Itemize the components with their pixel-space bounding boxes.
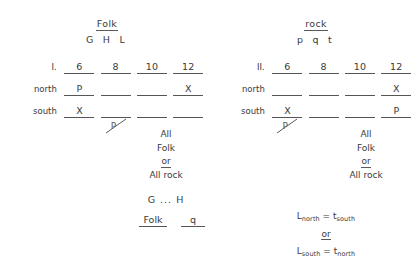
left-col-header-2: 8 — [99, 61, 132, 74]
right-col-header-2: 8 — [307, 61, 340, 74]
equation-1-right-sub: south — [337, 215, 356, 223]
left-north-cell-4[interactable]: X — [172, 83, 205, 96]
left-genre-title: Folk — [96, 18, 118, 31]
left-col-header-3-value: 10 — [135, 61, 168, 72]
left-north-cell-1[interactable]: P — [63, 83, 96, 96]
left-col-header-3: 10 — [135, 61, 168, 74]
right-south-cell-2-rule — [309, 117, 339, 118]
left-south-cell-2[interactable]: P — [99, 105, 132, 118]
left-col-header-2-value: 8 — [99, 61, 132, 72]
left-col-header-4-rule — [173, 73, 203, 74]
left-bottom-pair-folk[interactable]: Folk — [139, 214, 167, 227]
constraint-equations: Lnorth = tsouth or Lsouth = tnorth — [246, 208, 406, 261]
left-table-roman-label: I. — [0, 62, 63, 74]
left-bottom-pair-folk-value: Folk — [139, 214, 167, 225]
left-table: I. 6 8 10 12 north — [0, 52, 208, 118]
right-table-number-row: II. 6 8 10 12 — [208, 52, 416, 74]
right-south-cell-3[interactable] — [343, 105, 376, 118]
right-row-label-north: north — [208, 84, 271, 96]
left-col-header-1-rule — [64, 73, 94, 74]
worksheet-page: Folk G H L I. 6 8 10 12 — [0, 0, 417, 270]
equation-1: Lnorth = tsouth — [246, 208, 406, 226]
left-bottom-pair-folk-rule — [139, 226, 167, 227]
right-south-cell-4-rule — [381, 117, 411, 118]
left-north-cell-2[interactable] — [99, 83, 132, 96]
left-col-header-3-rule — [137, 73, 167, 74]
right-table: II. 6 8 10 12 north — [208, 52, 416, 118]
equations-connector: or — [321, 229, 330, 240]
right-note-or: or — [361, 156, 370, 168]
equation-1-left-sub: north — [302, 215, 320, 223]
equations-connector-wrap: or — [246, 226, 406, 243]
right-table-roman-label: II. — [208, 62, 271, 74]
right-south-cell-1-value: X — [271, 105, 304, 116]
right-north-cell-2[interactable] — [307, 83, 340, 96]
left-col-header-1: 6 — [63, 61, 96, 74]
right-genre-title: rock — [304, 18, 327, 31]
left-genre-heading: Folk G H L — [47, 12, 167, 45]
left-note-line-2: Folk — [124, 142, 208, 156]
left-col-header-2-rule — [101, 73, 131, 74]
right-north-cell-3-rule — [345, 95, 375, 96]
left-row-label-south: south — [0, 106, 63, 118]
left-south-cell-4-rule — [173, 117, 203, 118]
right-genre-heading: rock p q t — [256, 12, 376, 45]
equation-2-right-sub: north — [337, 250, 355, 258]
right-north-cell-1[interactable] — [271, 83, 304, 96]
right-north-cell-1-value — [271, 83, 304, 94]
equation-1-relation: = — [320, 211, 333, 221]
right-col-header-4-value: 12 — [380, 61, 413, 72]
right-col-header-3: 10 — [343, 61, 376, 74]
left-south-cell-4-value — [172, 105, 205, 116]
left-north-cell-3-value — [135, 83, 168, 94]
left-south-cell-1[interactable]: X — [63, 105, 96, 118]
left-bottom-pair-q-value: q — [181, 214, 205, 225]
left-note-line-1: All — [124, 128, 208, 142]
equation-2-left-sub: south — [302, 250, 321, 258]
right-all-note: All Folk or All rock — [320, 128, 412, 182]
left-genre-letters: G H L — [47, 34, 167, 45]
left-table-row-south: south X P — [0, 96, 208, 118]
right-col-header-1-value: 6 — [271, 61, 304, 72]
right-col-header-3-value: 10 — [343, 61, 376, 72]
left-north-cell-4-rule — [173, 95, 203, 96]
left-north-cell-2-rule — [101, 95, 131, 96]
right-south-cell-2[interactable] — [307, 105, 340, 118]
strikethrough-slash-icon — [276, 118, 298, 134]
left-south-cell-2-value — [99, 105, 132, 116]
right-col-header-1-rule — [272, 73, 302, 74]
equation-2: Lsouth = tnorth — [246, 243, 406, 261]
right-table-row-south: south X P — [208, 96, 416, 118]
equation-2-relation: = — [320, 246, 333, 256]
right-col-header-2-rule — [309, 73, 339, 74]
left-south-cell-3-rule — [137, 117, 167, 118]
right-south-cell-4[interactable]: P — [380, 105, 413, 118]
right-col-header-2-value: 8 — [307, 61, 340, 72]
left-south-cell-3[interactable] — [135, 105, 168, 118]
right-south-cell-1[interactable]: X P — [271, 105, 304, 118]
left-col-header-4-value: 12 — [172, 61, 205, 72]
right-col-header-4-rule — [381, 73, 411, 74]
left-north-cell-3[interactable] — [135, 83, 168, 96]
left-all-note: All Folk or All rock — [124, 128, 208, 182]
left-north-cell-1-value: P — [63, 83, 96, 94]
left-bottom-pair-q-rule — [181, 226, 205, 227]
left-north-cell-2-value — [99, 83, 132, 94]
right-north-cell-4-value: X — [380, 83, 413, 94]
right-north-cell-4[interactable]: X — [380, 83, 413, 96]
right-north-cell-4-rule — [381, 95, 411, 96]
right-panel: rock p q t II. 6 8 10 12 — [208, 0, 416, 270]
right-col-header-1: 6 — [271, 61, 304, 74]
right-north-cell-1-rule — [272, 95, 302, 96]
right-note-line-2: Folk — [320, 142, 412, 156]
right-note-line-1: All — [320, 128, 412, 142]
right-col-header-4: 12 — [380, 61, 413, 74]
left-south-cell-4[interactable] — [172, 105, 205, 118]
left-note-or: or — [161, 156, 170, 168]
left-bottom-pair-q[interactable]: q — [181, 214, 205, 227]
right-struck-out-mark: P — [276, 118, 298, 134]
right-north-cell-3[interactable] — [343, 83, 376, 96]
left-col-header-1-value: 6 — [63, 61, 96, 72]
right-row-label-south: south — [208, 106, 271, 118]
left-north-cell-3-rule — [137, 95, 167, 96]
